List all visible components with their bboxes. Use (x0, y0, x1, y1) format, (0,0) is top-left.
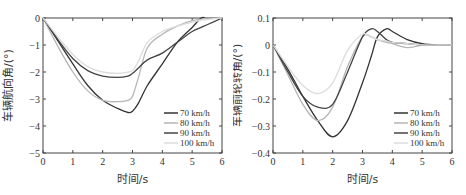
heading-angle-plot: 01234560−1−2−3−4−570 km/h80 km/h90 km/h1… (0, 0, 233, 195)
legend-label: 100 km/h (410, 138, 445, 148)
front-wheel-angle-plot: 01234560.10−0.1−0.2−0.3−0.470 km/h80 km/… (233, 0, 466, 195)
x-tick-label: 3 (360, 156, 365, 167)
legend-label: 70 km/h (410, 108, 440, 118)
x-tick-label: 4 (160, 156, 165, 167)
y-tick-label: −2 (29, 67, 40, 78)
x-tick-label: 0 (271, 156, 276, 167)
legend-label: 80 km/h (180, 118, 210, 128)
legend-label: 100 km/h (180, 138, 215, 148)
y-tick-label: −1 (29, 40, 40, 51)
x-tick-label: 4 (390, 156, 395, 167)
x-tick-label: 2 (330, 156, 335, 167)
y-tick-label: −0.4 (252, 148, 270, 159)
y-axis-label: 车辆航向角/(°) (1, 49, 15, 122)
x-tick-label: 6 (220, 156, 225, 167)
x-tick-label: 0 (41, 156, 46, 167)
x-tick-label: 2 (100, 156, 105, 167)
heading-angle-chart: 01234560−1−2−3−4−570 km/h80 km/h90 km/h1… (0, 0, 233, 195)
y-tick-label: 0 (35, 13, 40, 24)
y-tick-label: −0.3 (252, 121, 270, 132)
legend-label: 80 km/h (410, 118, 440, 128)
front-wheel-angle-chart: 01234560.10−0.1−0.2−0.3−0.470 km/h80 km/… (233, 0, 466, 195)
y-tick-label: 0 (265, 40, 270, 51)
y-tick-label: −4 (29, 121, 40, 132)
x-tick-label: 5 (190, 156, 195, 167)
x-tick-label: 1 (300, 156, 305, 167)
y-tick-label: −5 (29, 148, 40, 159)
legend-label: 70 km/h (180, 108, 210, 118)
x-axis-label: 时间/s (117, 173, 149, 186)
y-axis-label: 车辆前轮转角/(°) (233, 44, 244, 128)
y-tick-label: −0.1 (252, 67, 270, 78)
y-tick-label: −3 (29, 94, 40, 105)
x-tick-label: 6 (450, 156, 455, 167)
series-line-100-km-h (43, 18, 222, 73)
x-tick-label: 3 (130, 156, 135, 167)
series-line-70-km-h (43, 17, 222, 112)
x-tick-label: 5 (420, 156, 425, 167)
series-line-90-km-h (273, 29, 452, 109)
x-tick-label: 1 (70, 156, 75, 167)
legend-label: 90 km/h (180, 128, 210, 138)
y-tick-label: 0.1 (258, 13, 271, 24)
legend-label: 90 km/h (410, 128, 440, 138)
y-tick-label: −0.2 (252, 94, 270, 105)
x-axis-label: 时间/s (347, 173, 379, 186)
